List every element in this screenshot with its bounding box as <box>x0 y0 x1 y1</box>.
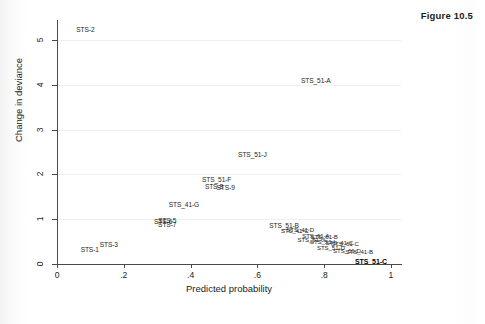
gridline-y <box>58 40 401 41</box>
data-point-label: STS_51-A <box>301 78 331 85</box>
data-point-label: STS-2 <box>76 27 94 34</box>
gridline-y <box>58 219 401 220</box>
x-tick-label: 0 <box>55 270 60 280</box>
y-tick <box>52 40 57 41</box>
x-tick <box>257 264 258 268</box>
data-point-label: STS_51-J <box>238 151 267 158</box>
x-tick <box>57 264 58 268</box>
x-tick <box>391 264 392 268</box>
data-point-label: STS_51-C <box>355 258 387 265</box>
scatter-plot: Predicted probability Change in deviance… <box>0 0 485 324</box>
x-tick-label: 1 <box>389 270 394 280</box>
x-tick-label: .6 <box>254 270 261 280</box>
y-tick <box>52 85 57 86</box>
x-axis-line <box>57 264 402 265</box>
data-point-label: STS_41-B <box>346 249 373 255</box>
gridline-y <box>58 85 401 86</box>
x-tick <box>191 264 192 268</box>
x-tick-label: .8 <box>321 270 328 280</box>
y-tick <box>52 130 57 131</box>
x-tick <box>124 264 125 268</box>
x-axis-label: Predicted probability <box>57 283 401 294</box>
gridline-y <box>58 130 401 131</box>
y-tick-label: 2 <box>35 172 45 177</box>
y-tick-label: 0 <box>35 262 45 267</box>
data-point-label: STS-7 <box>158 221 176 228</box>
y-tick-label: 4 <box>35 83 45 88</box>
data-point-label: STS-3 <box>100 242 118 249</box>
y-axis-label: Change in deviance <box>13 58 24 142</box>
y-tick-label: 1 <box>35 217 45 222</box>
x-tick-label: .2 <box>120 270 127 280</box>
x-tick <box>324 264 325 268</box>
y-tick <box>52 174 57 175</box>
y-tick <box>52 219 57 220</box>
y-tick-label: 3 <box>35 127 45 132</box>
figure-page: Figure 10.5 Predicted probability Change… <box>0 0 485 324</box>
x-tick-label: .4 <box>187 270 194 280</box>
data-point-label: STS-9 <box>217 185 235 192</box>
plot-data-area <box>57 20 401 264</box>
data-point-label: STS-1 <box>81 247 99 254</box>
y-tick-label: 5 <box>35 38 45 43</box>
data-point-label: STS_41-G <box>169 202 199 209</box>
